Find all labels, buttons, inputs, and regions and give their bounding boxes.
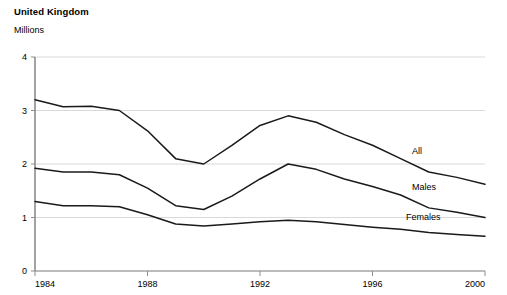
y-tick-label: 3 (22, 106, 27, 116)
gridlines (35, 57, 485, 271)
y-tick-label: 2 (22, 159, 27, 169)
y-tick-label: 0 (22, 266, 27, 276)
chart-container: United Kingdom Millions 01234 1984198819… (0, 0, 507, 295)
x-tick-label: 2000 (465, 279, 485, 289)
x-tick-marks (35, 271, 485, 276)
y-tick-label: 4 (22, 52, 27, 62)
y-tick-label: 1 (22, 213, 27, 223)
series-label-males: Males (412, 182, 437, 192)
x-tick-label: 1988 (137, 279, 157, 289)
series-inline-labels: AllMalesFemales (406, 146, 441, 222)
series-label-all: All (412, 146, 422, 156)
x-tick-labels: 19841988199219962000 (35, 279, 485, 289)
y-tick-labels: 01234 (22, 52, 35, 276)
x-tick-label: 1984 (35, 279, 55, 289)
x-tick-label: 1996 (362, 279, 382, 289)
line-chart-plot: 01234 19841988199219962000 AllMalesFemal… (0, 0, 507, 295)
series-line-all (35, 100, 485, 185)
series-label-females: Females (406, 212, 441, 222)
x-tick-label: 1992 (250, 279, 270, 289)
